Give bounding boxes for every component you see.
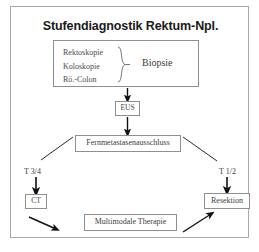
node-eus[interactable]: EUS [115, 101, 140, 116]
list-item: Koloskopie [63, 60, 103, 74]
line-fern-to-right-branch [183, 137, 217, 161]
branch-label-right: T 1/2 [219, 167, 236, 176]
line-fern-to-left-branch [41, 137, 73, 160]
branch-label-left: T 3/4 [24, 167, 41, 176]
workup-list: Rektoskopie Koloskopie Rö.-Colon [63, 46, 103, 87]
node-ct[interactable]: CT [25, 194, 47, 209]
arrow-multimodal-to-resektion [183, 214, 211, 232]
biopsie-label: Biopsie [142, 57, 173, 68]
node-workup-box[interactable]: Rektoskopie Koloskopie Rö.-Colon Biopsie [53, 40, 199, 87]
list-item: Rö.-Colon [63, 73, 103, 87]
node-fernmetastasenausschluss[interactable]: Fernmetastasenausschluss [75, 135, 181, 152]
arrow-ct-to-multimodal [29, 217, 56, 229]
brace-icon [116, 46, 132, 83]
list-item: Rektoskopie [63, 46, 103, 60]
diagram-page: Stufendiagnostik Rektum-Npl. [0, 0, 259, 252]
diagram-frame: Stufendiagnostik Rektum-Npl. [10, 6, 249, 238]
node-resektion[interactable]: Resektion [204, 193, 250, 209]
node-multimodale-therapie[interactable]: Multimodale Therapie [84, 214, 177, 231]
